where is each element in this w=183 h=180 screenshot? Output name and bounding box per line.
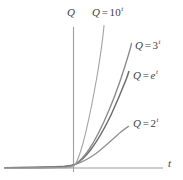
plot-canvas bbox=[0, 0, 183, 180]
curve-label-e-base: e bbox=[151, 69, 156, 81]
curve-label-3-lhs: Q bbox=[135, 39, 143, 51]
curve-label-10-exponent: t bbox=[121, 5, 123, 13]
curve-3-to-the-t bbox=[5, 44, 132, 169]
curve-label-e-operator: = bbox=[141, 69, 150, 81]
curve-label-10-to-the-t: Q=10t bbox=[92, 7, 123, 18]
exponential-curves-figure: Q t Q=10t Q=3t Q=et Q=2t bbox=[0, 0, 183, 180]
curve-e-to-the-t bbox=[5, 72, 129, 168]
curve-label-3-to-the-t: Q=3t bbox=[135, 40, 161, 51]
curve-label-10-lhs: Q bbox=[92, 6, 100, 18]
curve-label-2-exponent: t bbox=[156, 116, 158, 124]
curve-label-2-lhs: Q bbox=[133, 117, 141, 129]
curve-2-to-the-t bbox=[5, 126, 129, 167]
curve-label-10-base: 10 bbox=[110, 6, 121, 18]
curve-label-3-exponent: t bbox=[158, 38, 160, 46]
curve-label-3-operator: = bbox=[143, 39, 152, 51]
curve-label-e-to-the-t: Q=et bbox=[133, 70, 158, 81]
q-axis-label: Q bbox=[67, 7, 75, 18]
curve-label-2-operator: = bbox=[141, 117, 150, 129]
curve-label-e-lhs: Q bbox=[133, 69, 141, 81]
curve-label-10-operator: = bbox=[100, 6, 109, 18]
curve-label-2-to-the-t: Q=2t bbox=[133, 118, 159, 129]
t-axis-label: t bbox=[168, 158, 171, 169]
curve-10-to-the-t bbox=[5, 26, 104, 169]
curve-label-e-exponent: t bbox=[156, 68, 158, 76]
